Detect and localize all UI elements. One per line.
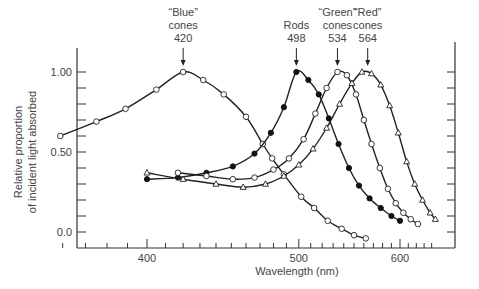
y-tick-label: 0.0	[57, 226, 72, 238]
annotation-text: “Green”	[319, 6, 357, 18]
marker-open-circle	[204, 173, 210, 179]
marker-open-circle	[154, 87, 160, 93]
arrow-down-icon	[294, 60, 299, 66]
annotation-text: cones	[323, 19, 353, 31]
annotation-text: 564	[359, 32, 377, 44]
marker-open-circle	[180, 69, 186, 75]
arrow-down-icon	[365, 60, 370, 66]
peak-annotations: “Blue”cones420Rods498“Green”cones534“Red…	[168, 6, 382, 66]
marker-filled-circle	[268, 130, 273, 135]
marker-filled-circle	[389, 213, 394, 218]
marker-open-circle	[415, 221, 421, 227]
marker-open-circle	[344, 72, 350, 78]
marker-open-circle	[230, 176, 236, 182]
marker-open-circle	[408, 216, 414, 222]
marker-open-circle	[351, 232, 357, 238]
marker-filled-circle	[356, 183, 361, 188]
curve-green	[178, 71, 418, 224]
marker-filled-circle	[281, 105, 286, 110]
marker-filled-circle	[306, 77, 311, 82]
marker-open-circle	[298, 194, 304, 200]
arrow-down-icon	[181, 60, 186, 66]
x-axis-label: Wavelength (nm)	[255, 265, 338, 277]
curves	[58, 69, 439, 241]
y-tick-label: 0.50	[51, 146, 72, 158]
marker-triangle	[412, 181, 418, 186]
x-tick-label: 400	[138, 252, 156, 264]
marker-open-circle	[313, 111, 319, 117]
marker-open-circle	[271, 167, 277, 173]
x-tick-label: 500	[290, 252, 308, 264]
marker-open-circle	[175, 170, 181, 176]
marker-filled-circle	[397, 218, 402, 223]
marker-open-circle	[58, 133, 64, 139]
marker-filled-circle	[230, 164, 235, 169]
annotation-text: 534	[328, 32, 346, 44]
annotation-text: 420	[174, 32, 192, 44]
marker-open-circle	[252, 175, 258, 181]
marker-open-circle	[301, 136, 307, 142]
marker-open-circle	[339, 226, 345, 232]
marker-triangle	[404, 158, 410, 163]
absorption-spectra-chart: 0.00.501.00400500600 “Blue”cones420Rods4…	[0, 0, 479, 289]
annotation-text: “Blue”	[168, 6, 198, 18]
y-axis-label-line1: Relative proportion	[12, 106, 24, 198]
y-tick-label: 1.00	[51, 66, 72, 78]
y-axis-label-line2: of incident light absorbed	[26, 91, 38, 213]
marker-open-circle	[200, 77, 206, 83]
marker-open-circle	[311, 205, 317, 211]
annotation-text: Rods	[284, 19, 310, 31]
x-tick-label: 600	[391, 252, 409, 264]
marker-open-circle	[269, 156, 275, 162]
marker-open-circle	[361, 117, 367, 123]
arrow-down-icon	[335, 60, 340, 66]
annotation-text: cones	[168, 19, 198, 31]
marker-open-circle	[221, 92, 227, 98]
marker-open-circle	[335, 69, 341, 75]
marker-open-circle	[94, 119, 100, 125]
marker-filled-circle	[367, 196, 372, 201]
marker-filled-circle	[378, 205, 383, 210]
annotation-text: “Red”	[354, 6, 382, 18]
marker-filled-circle	[294, 69, 299, 74]
annotation-text: 498	[287, 32, 305, 44]
marker-open-circle	[377, 165, 383, 171]
marker-open-circle	[353, 92, 359, 98]
marker-open-circle	[325, 218, 331, 224]
marker-open-circle	[243, 114, 249, 120]
marker-triangle	[387, 102, 393, 107]
marker-open-circle	[385, 186, 391, 192]
marker-triangle	[395, 130, 401, 135]
marker-filled-circle	[144, 177, 149, 182]
marker-open-circle	[363, 236, 369, 242]
marker-filled-circle	[346, 165, 351, 170]
marker-open-circle	[324, 85, 330, 91]
marker-triangle	[144, 170, 150, 175]
marker-filled-circle	[336, 141, 341, 146]
marker-triangle	[420, 197, 426, 202]
marker-open-circle	[369, 141, 375, 147]
annotation-text: cones	[353, 19, 383, 31]
curve-rods	[147, 71, 400, 221]
marker-open-circle	[286, 156, 292, 162]
marker-filled-circle	[316, 92, 321, 97]
marker-open-circle	[123, 106, 129, 112]
marker-open-circle	[393, 200, 399, 206]
marker-open-circle	[401, 210, 407, 216]
marker-filled-circle	[252, 151, 257, 156]
